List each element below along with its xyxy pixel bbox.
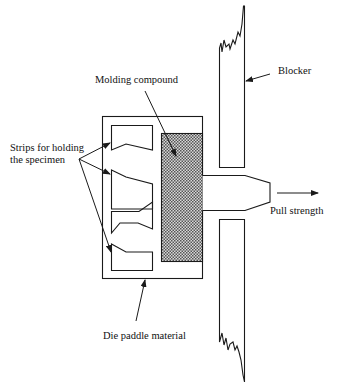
pull-rod [203, 176, 271, 211]
molding-compound-leader [145, 91, 176, 156]
strips-leader-3 [79, 159, 111, 252]
strip-2 [112, 170, 153, 209]
blocker-upper [220, 6, 245, 168]
label-strips-line2: the specimen [10, 154, 66, 165]
blocker-leader [246, 74, 270, 81]
label-pull-strength: Pull strength [270, 205, 324, 216]
blocker-lower [220, 220, 245, 383]
strip-1 [112, 126, 153, 151]
pull-test-diagram: Molding compound Blocker Strips for hold… [0, 0, 337, 390]
label-die-paddle: Die paddle material [103, 330, 186, 341]
label-molding-compound: Molding compound [95, 74, 179, 85]
strip-4 [112, 244, 153, 271]
strip-3 [112, 202, 153, 233]
die-paddle-leader [136, 280, 145, 321]
molding-compound-block [162, 134, 203, 262]
label-strips-line1: Strips for holding [10, 142, 85, 153]
label-blocker: Blocker [278, 65, 312, 76]
